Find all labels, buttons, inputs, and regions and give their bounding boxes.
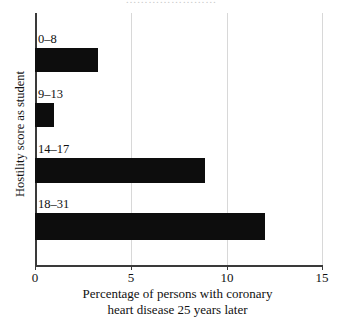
gridline-15 [322,13,323,265]
bar-chart: …………………… 0–8 9–13 14–17 18–31 0 5 10 15 … [0,0,341,321]
x-axis-title-line-2: heart disease 25 years later [30,302,325,318]
category-label-0-8: 0–8 [38,32,57,47]
tick-label-15: 15 [316,270,329,286]
tick-label-0: 0 [32,270,39,286]
x-axis-title-line-1: Percentage of persons with coronary [30,286,325,302]
category-label-14-17: 14–17 [38,142,69,157]
category-label-18-31: 18–31 [38,197,69,212]
clipped-chart-title: …………………… [110,0,232,3]
y-axis-title: Hostility score as student [13,29,31,239]
category-label-9-13: 9–13 [38,87,63,102]
bar-18-31 [35,213,265,240]
bar-14-17 [35,158,205,183]
tick-label-10: 10 [221,270,234,286]
tick-label-5: 5 [128,270,135,286]
x-axis-title: Percentage of persons with coronary hear… [30,286,325,318]
bar-0-8 [35,48,98,72]
x-axis-line [35,265,323,267]
bar-9-13 [35,103,54,127]
